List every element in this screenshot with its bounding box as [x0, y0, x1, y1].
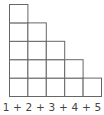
grid-square — [28, 60, 46, 78]
grid-square — [10, 41, 28, 59]
grid-square — [28, 78, 46, 96]
grid-square — [10, 23, 28, 41]
grid-square — [65, 60, 83, 78]
grid-square — [10, 78, 28, 96]
staircase-grid — [0, 0, 104, 100]
grid-square — [46, 78, 64, 96]
grid-square — [28, 41, 46, 59]
grid-square — [28, 23, 46, 41]
grid-square — [83, 78, 101, 96]
grid-square — [10, 5, 28, 23]
grid-square — [46, 41, 64, 59]
sum-caption: 1 + 2 + 3 + 4 + 5 — [0, 100, 104, 115]
grid-square — [10, 60, 28, 78]
grid-square — [65, 78, 83, 96]
grid-square — [46, 60, 64, 78]
